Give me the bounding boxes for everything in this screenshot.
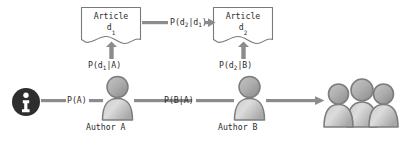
- edge-label-author-b-to-article2: P(d2|B): [219, 60, 252, 71]
- author-b-label: Author B: [218, 122, 257, 132]
- article-1-text: Article d1: [80, 11, 142, 36]
- article-2-title: Article: [226, 11, 261, 21]
- article-1-id: d1: [80, 22, 142, 36]
- people-group-icon: [322, 66, 400, 128]
- diagram-canvas: Article d1 Article d2 P(d2|d1): [0, 0, 401, 143]
- edge-label-article1-to-article2: P(d2|d1): [170, 17, 207, 28]
- info-source-node[interactable]: [11, 87, 41, 117]
- edge-author-a-to-article1: [105, 41, 116, 59]
- info-icon: [11, 87, 41, 117]
- person-icon: [97, 73, 138, 121]
- edge-author-b-to-audience: [266, 95, 325, 106]
- person-icon: [229, 73, 270, 121]
- edge-label-author-a-to-article1: P(d1|A): [88, 60, 121, 71]
- edge-source-to-author-a-left: [41, 95, 66, 106]
- article-1-title: Article: [94, 11, 129, 21]
- author-b-node[interactable]: [229, 73, 270, 121]
- edge-label-source-to-author-a: P(A): [67, 95, 87, 105]
- edge-author-b-to-article2: [237, 41, 248, 59]
- edge-article1-to-article2-right: [204, 17, 216, 28]
- article-2-id: d2: [212, 22, 274, 36]
- article-2-text: Article d2: [212, 11, 274, 36]
- audience-node[interactable]: [322, 66, 400, 128]
- edge-article1-to-article2-left: [142, 17, 168, 28]
- edge-label-author-a-to-author-b: P(B|A): [164, 95, 194, 105]
- author-a-label: Author A: [86, 122, 125, 132]
- author-a-node[interactable]: [97, 73, 138, 121]
